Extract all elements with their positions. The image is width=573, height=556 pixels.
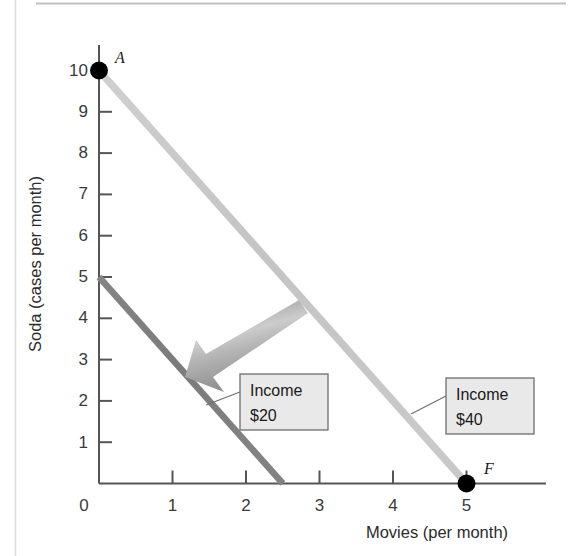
- y-tick-label-7: 7: [79, 184, 88, 203]
- data-point-f: [458, 475, 476, 493]
- y-axis-title: Soda (cases per month): [26, 176, 44, 352]
- data-point-f-label: F: [483, 460, 494, 477]
- y-tick-label-5: 5: [79, 267, 88, 286]
- x-axis-ticks: [173, 471, 467, 484]
- income-40-callout: Income $40: [411, 378, 534, 434]
- y-tick-label-6: 6: [79, 226, 88, 245]
- y-tick-label-9: 9: [79, 102, 88, 121]
- y-tick-label-10: 10: [69, 61, 88, 80]
- figure-canvas: 10 9 8 7 6 5 4 3 2 1 0 1 2 3 4 5 Soda (c…: [0, 0, 573, 556]
- income-20-label-line1: Income: [250, 382, 303, 399]
- budget-line-chart: 10 9 8 7 6 5 4 3 2 1 0 1 2 3 4 5 Soda (c…: [0, 0, 573, 556]
- x-axis-title: Movies (per month): [366, 523, 508, 541]
- income-40-leader-line: [411, 396, 446, 414]
- origin-label-0: 0: [79, 496, 88, 515]
- income-20-label-line2: $20: [250, 407, 277, 424]
- x-tick-label-4: 4: [388, 496, 397, 515]
- y-tick-label-8: 8: [79, 143, 88, 162]
- data-point-a: [90, 62, 108, 80]
- y-tick-label-2: 2: [79, 391, 88, 410]
- income-40-label-line2: $40: [456, 411, 483, 428]
- x-tick-label-3: 3: [315, 496, 324, 515]
- x-tick-label-2: 2: [241, 496, 250, 515]
- x-tick-label-5: 5: [462, 496, 471, 515]
- y-tick-label-3: 3: [79, 350, 88, 369]
- income-40-label-line1: Income: [456, 386, 509, 403]
- x-tick-label-1: 1: [168, 496, 177, 515]
- data-point-a-label: A: [114, 49, 125, 66]
- y-tick-label-1: 1: [79, 433, 88, 452]
- y-tick-label-4: 4: [79, 308, 88, 327]
